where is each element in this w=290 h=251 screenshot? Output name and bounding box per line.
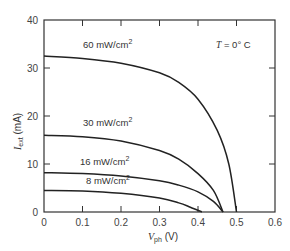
y-tick-label: 10 (27, 159, 39, 170)
iv-curve (44, 56, 237, 212)
x-tick-label: 0.3 (153, 217, 167, 228)
curve-label-60: 60 mW/cm2 (83, 38, 132, 50)
y-tick-label: 30 (27, 63, 39, 74)
curve-label-16: 16 mW/cm2 (80, 155, 129, 167)
x-axis-title: Vph (V) (148, 231, 178, 244)
y-tick-label: 0 (32, 207, 38, 218)
iv-characteristic-chart: 00.10.20.30.40.50.6010203040 60 mW/cm2 3… (0, 0, 290, 251)
x-tick-label: 0.6 (268, 217, 282, 228)
y-tick-label: 20 (27, 111, 39, 122)
iv-curve (44, 173, 223, 212)
curves (44, 56, 237, 212)
curve-label-30: 30 mW/cm2 (83, 116, 132, 128)
x-tick-label: 0.5 (230, 217, 244, 228)
iv-curve (44, 190, 202, 212)
x-tick-label: 0 (41, 217, 47, 228)
temperature-annotation: T = 0° C (216, 39, 251, 50)
curve-label-8: 8 mW/cm2 (86, 174, 130, 186)
x-tick-label: 0.2 (114, 217, 128, 228)
y-tick-label: 40 (27, 15, 39, 26)
x-tick-label: 0.4 (191, 217, 205, 228)
y-axis-title: Iext (mA) (12, 113, 24, 151)
x-tick-label: 0.1 (76, 217, 90, 228)
